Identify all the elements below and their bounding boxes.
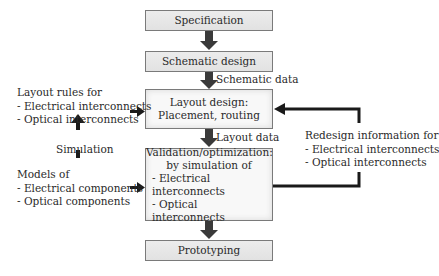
schematic-data-label: Schematic data	[216, 73, 299, 87]
redesign-note: Redesign information for - Electrical in…	[305, 129, 439, 170]
models-optical: - Optical components	[17, 195, 143, 209]
layout-rules-title: Layout rules for	[17, 86, 151, 100]
layout-data-label: Layout data	[216, 131, 279, 145]
simulation-label: Simulation	[56, 143, 114, 157]
redesign-optical: - Optical interconnects	[305, 156, 439, 170]
prototyping-label: Prototyping	[146, 244, 272, 257]
layout-design-title: Layout design:	[146, 96, 272, 109]
prototyping-box: Prototyping	[145, 240, 273, 261]
schematic-design-label: Schematic design	[146, 55, 272, 68]
layout-rules-optical: - Optical interconnects	[17, 113, 151, 127]
specification-label: Specification	[146, 14, 272, 27]
models-title: Models of	[17, 168, 143, 182]
redesign-electrical: - Electrical interconnects	[305, 143, 439, 157]
layout-rules-electrical: - Electrical interconnects	[17, 100, 151, 114]
models-electrical: - Electrical components	[17, 182, 143, 196]
layout-design-subtitle: Placement, routing	[146, 109, 272, 122]
layout-design-box: Layout design: Placement, routing	[145, 89, 273, 129]
layout-rules-note: Layout rules for - Electrical interconne…	[17, 86, 151, 127]
specification-box: Specification	[145, 10, 273, 31]
validation-item-electrical: - Electrical interconnects	[146, 172, 272, 198]
schematic-design-box: Schematic design	[145, 51, 273, 72]
validation-box: Validation/optimization: by simulation o…	[145, 148, 273, 221]
validation-subtitle: by simulation of	[146, 159, 272, 172]
models-note: Models of - Electrical components - Opti…	[17, 168, 143, 209]
validation-item-optical: - Optical interconnects	[146, 198, 272, 224]
validation-title: Validation/optimization:	[146, 146, 272, 159]
redesign-title: Redesign information for	[305, 129, 439, 143]
